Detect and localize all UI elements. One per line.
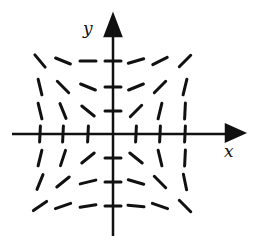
slope-segment bbox=[129, 84, 144, 90]
slope-segment bbox=[154, 176, 165, 187]
slope-segment bbox=[82, 106, 94, 116]
slope-segment bbox=[37, 175, 43, 190]
slope-segment bbox=[35, 55, 45, 67]
slope-segment bbox=[61, 150, 66, 165]
slope-segment bbox=[160, 126, 161, 142]
slope-segment bbox=[57, 81, 68, 92]
slope-segment bbox=[63, 126, 64, 142]
slope-segment bbox=[128, 59, 143, 64]
slope-segment bbox=[81, 84, 96, 90]
slope-segment bbox=[128, 180, 143, 185]
slope-segment bbox=[33, 201, 46, 210]
slope-segment bbox=[152, 203, 167, 208]
slope-segment bbox=[158, 150, 162, 166]
slope-segment bbox=[185, 150, 186, 166]
slope-segment bbox=[154, 81, 165, 92]
x-axis-label: x bbox=[224, 141, 234, 161]
slope-segment bbox=[56, 58, 71, 64]
slope-segment bbox=[130, 153, 142, 163]
slope-segment bbox=[38, 150, 42, 166]
slope-segment bbox=[183, 174, 186, 190]
slope-segment bbox=[130, 105, 141, 116]
slope-segment bbox=[185, 126, 186, 142]
slope-segment bbox=[136, 126, 137, 142]
slope-segment bbox=[60, 104, 66, 119]
x-axis-arrowhead-icon bbox=[226, 125, 244, 141]
slope-segment bbox=[82, 153, 94, 163]
slope-segment bbox=[80, 180, 96, 184]
slope-segment bbox=[179, 55, 190, 66]
slope-segment bbox=[153, 57, 167, 64]
slope-segment bbox=[183, 79, 187, 95]
y-axis-arrowhead-icon bbox=[105, 15, 121, 36]
slope-segment bbox=[40, 126, 41, 142]
slope-segment bbox=[38, 79, 42, 95]
slope-segment bbox=[57, 177, 69, 187]
slope-segment bbox=[158, 103, 162, 119]
slope-segment bbox=[185, 103, 186, 119]
y-axis-label: y bbox=[82, 18, 93, 38]
slope-segment bbox=[38, 103, 42, 119]
slope-segment bbox=[128, 205, 144, 207]
slope-segment bbox=[55, 203, 70, 208]
slope-segment bbox=[80, 205, 96, 207]
slope-segment bbox=[88, 126, 89, 142]
slope-segment bbox=[179, 200, 190, 211]
slope-field-diagram: y x bbox=[0, 0, 263, 249]
